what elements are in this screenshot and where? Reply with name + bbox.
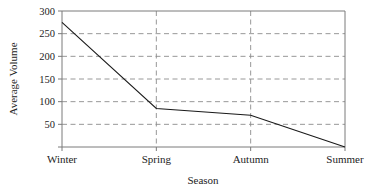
- chart-figure: 50100150200250300 WinterSpringAutumnSumm…: [0, 0, 380, 190]
- x-axis-ticks: [62, 147, 345, 151]
- y-axis-ticks: [58, 11, 62, 147]
- y-tick-label-300: 300: [39, 6, 55, 17]
- y-tick-label-50: 50: [45, 119, 56, 130]
- x-axis-title: Season: [187, 174, 219, 186]
- line-chart: 50100150200250300 WinterSpringAutumnSumm…: [0, 0, 380, 190]
- x-tick-label-summer: Summer: [326, 153, 364, 165]
- y-tick-label-200: 200: [39, 51, 55, 62]
- y-axis-tick-labels: 50100150200250300: [39, 6, 55, 130]
- horizontal-gridlines: [62, 34, 345, 125]
- y-tick-label-250: 250: [39, 28, 55, 39]
- y-tick-label-100: 100: [39, 96, 55, 107]
- y-axis-title: Average Volume: [7, 42, 19, 115]
- x-axis-tick-labels: WinterSpringAutumnSummer: [47, 153, 364, 165]
- data-series-line: [62, 22, 345, 147]
- x-tick-label-autumn: Autumn: [233, 153, 270, 165]
- y-tick-label-150: 150: [39, 74, 55, 85]
- x-tick-label-winter: Winter: [47, 153, 77, 165]
- x-tick-label-spring: Spring: [142, 153, 172, 165]
